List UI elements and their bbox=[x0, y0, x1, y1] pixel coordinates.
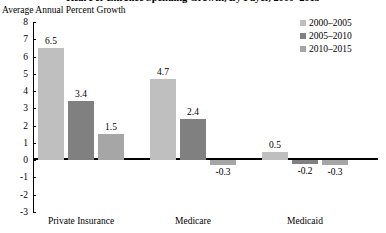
bar[interactable] bbox=[322, 160, 348, 165]
y-axis-tick-label: 5 bbox=[0, 69, 28, 79]
bar[interactable] bbox=[262, 152, 288, 161]
y-axis-tick-label: 2 bbox=[0, 121, 28, 131]
y-axis-tick-label: 3 bbox=[0, 103, 28, 113]
y-axis-tick bbox=[33, 143, 36, 144]
bar-value-label: 2.4 bbox=[174, 107, 212, 117]
y-axis-tick bbox=[33, 74, 36, 75]
y-axis-tick-label: 4 bbox=[0, 86, 28, 96]
y-axis-tick bbox=[33, 91, 36, 92]
y-axis-tick bbox=[33, 212, 36, 213]
bar[interactable] bbox=[180, 119, 206, 160]
x-axis-category-label: Medicare bbox=[130, 216, 256, 227]
y-axis-tick bbox=[33, 160, 36, 161]
chart-plot-area: 876543210-1-2-3 6.53.41.54.72.4-0.30.5-0… bbox=[0, 0, 386, 233]
bar[interactable] bbox=[98, 134, 124, 160]
bar-value-label: 1.5 bbox=[92, 122, 130, 132]
bar[interactable] bbox=[68, 101, 94, 160]
bar-value-label: 3.4 bbox=[62, 89, 100, 99]
bar[interactable] bbox=[292, 160, 318, 163]
y-axis-tick bbox=[33, 22, 36, 23]
y-axis-tick-label: 0 bbox=[0, 155, 28, 165]
y-axis-tick bbox=[33, 177, 36, 178]
bar-value-label: 4.7 bbox=[144, 67, 182, 77]
y-axis-tick-label: 1 bbox=[0, 138, 28, 148]
x-axis-category-label: Medicaid bbox=[242, 216, 368, 227]
y-axis-tick-label: 7 bbox=[0, 34, 28, 44]
y-axis-line bbox=[33, 22, 34, 212]
y-axis-tick-label: -1 bbox=[0, 172, 28, 182]
bar-value-label: 0.5 bbox=[256, 140, 294, 150]
x-axis-category-label: Private Insurance bbox=[18, 216, 144, 227]
bar-value-label: -0.3 bbox=[204, 167, 242, 177]
bar-value-label: -0.3 bbox=[316, 167, 354, 177]
y-axis-tick bbox=[33, 57, 36, 58]
y-axis-tick-label: 6 bbox=[0, 52, 28, 62]
y-axis-tick-label: 8 bbox=[0, 17, 28, 27]
bar-value-label: 6.5 bbox=[32, 36, 70, 46]
y-axis-tick bbox=[33, 195, 36, 196]
y-axis-tick bbox=[33, 126, 36, 127]
y-axis-tick bbox=[33, 108, 36, 109]
bar[interactable] bbox=[38, 48, 64, 160]
y-axis-tick-label: -2 bbox=[0, 190, 28, 200]
bar[interactable] bbox=[150, 79, 176, 160]
bar[interactable] bbox=[210, 160, 236, 165]
